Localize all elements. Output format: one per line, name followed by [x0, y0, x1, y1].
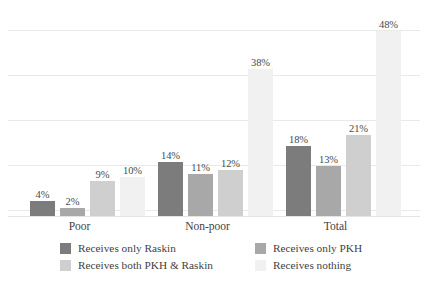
bar-value-label: 9%	[96, 169, 110, 180]
bar-value-label: 4%	[36, 189, 50, 200]
category-label-non-poor: Non-poor	[150, 220, 265, 232]
legend-label: Receives both PKH & Raskin	[78, 259, 213, 272]
bar-value-label: 14%	[161, 150, 180, 161]
bar-value-label: 38%	[251, 57, 270, 68]
bar: 14%	[158, 148, 183, 216]
bar-value-label: 11%	[191, 162, 210, 173]
bar-rect	[376, 31, 401, 216]
bar: 10%	[120, 163, 145, 216]
bar-chart: 4%2%9%10% 14%11%12%38% 18%13%21%48% Poor…	[0, 0, 428, 286]
legend-swatch-icon	[60, 260, 71, 271]
bar-value-label: 10%	[123, 165, 142, 176]
legend-item-receives-only-pkh[interactable]: Receives only PKH	[255, 240, 400, 257]
chart-legend: Receives only Raskin Receives only PKH R…	[60, 240, 400, 274]
bar: 38%	[248, 55, 273, 216]
legend-row: Receives both PKH & Raskin Receives noth…	[60, 257, 400, 274]
bar-rect	[188, 174, 213, 216]
bar-value-label: 13%	[319, 154, 338, 165]
legend-label: Receives nothing	[273, 259, 351, 272]
bar-rect	[248, 69, 273, 216]
bar: 21%	[346, 121, 371, 216]
bar: 11%	[188, 160, 213, 216]
bar-value-label: 18%	[289, 134, 308, 145]
bar-group-poor: 4%2%9%10%	[30, 13, 145, 216]
legend-item-receives-both-pkh-raskin[interactable]: Receives both PKH & Raskin	[60, 257, 255, 274]
bar-rect	[158, 162, 183, 216]
legend-label: Receives only PKH	[273, 242, 362, 255]
bar: 9%	[90, 167, 115, 216]
bar-rect	[316, 166, 341, 216]
legend-swatch-icon	[60, 243, 71, 254]
bar-value-label: 12%	[221, 158, 240, 169]
legend-row: Receives only Raskin Receives only PKH	[60, 240, 400, 257]
bar: 2%	[60, 194, 85, 216]
bar-rect	[346, 135, 371, 216]
bar-value-label: 2%	[66, 196, 80, 207]
bar-rect	[30, 201, 55, 216]
bar-rect	[60, 208, 85, 216]
bar-rect	[120, 177, 145, 216]
category-label-poor: Poor	[22, 220, 137, 232]
bar-group-total: 18%13%21%48%	[286, 13, 401, 216]
legend-label: Receives only Raskin	[78, 242, 176, 255]
bar-rect	[90, 181, 115, 216]
bar: 13%	[316, 152, 341, 216]
bar: 18%	[286, 132, 311, 216]
bar: 12%	[218, 156, 243, 216]
bar: 4%	[30, 187, 55, 216]
bar-value-label: 21%	[349, 123, 368, 134]
legend-item-receives-nothing[interactable]: Receives nothing	[255, 257, 400, 274]
legend-swatch-icon	[255, 243, 266, 254]
bar-rect	[218, 170, 243, 216]
legend-item-receives-only-raskin[interactable]: Receives only Raskin	[60, 240, 255, 257]
bar-rect	[286, 146, 311, 216]
bar-value-label: 48%	[379, 19, 398, 30]
category-label-total: Total	[278, 220, 393, 232]
bar: 48%	[376, 17, 401, 216]
bar-group-non-poor: 14%11%12%38%	[158, 13, 273, 216]
plot-area: 4%2%9%10% 14%11%12%38% 18%13%21%48%	[8, 14, 420, 217]
axis-baseline	[8, 216, 420, 217]
legend-swatch-icon	[255, 260, 266, 271]
